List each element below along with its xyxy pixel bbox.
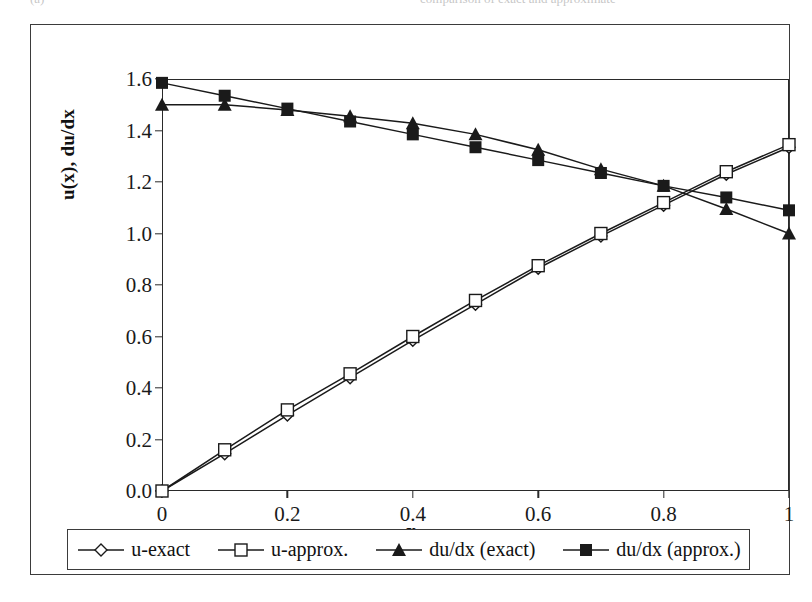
square-filled-marker: [219, 90, 231, 102]
x-tick-mark: [663, 491, 664, 498]
square-filled-marker: [156, 77, 168, 89]
square-open-marker: [219, 444, 231, 456]
x-tick-label: 0.2: [274, 502, 300, 527]
square-filled-marker: [720, 191, 732, 203]
square-open-marker: [407, 331, 419, 343]
square-open-marker: [470, 294, 482, 306]
y-tick-label: 1.0: [88, 221, 152, 246]
y-tick-label: 0.8: [88, 273, 152, 298]
legend-item-4[interactable]: du/dx (approx.): [561, 538, 740, 561]
square-filled-marker: [532, 154, 544, 166]
y-tick-label: 1.6: [88, 67, 152, 92]
square-filled-marker: [344, 115, 356, 127]
triangle-filled-icon: [374, 541, 424, 559]
x-tick-label: 0.4: [400, 502, 426, 527]
square-open-marker: [658, 197, 670, 209]
y-tick-mark: [155, 336, 162, 337]
square-open-marker: [783, 139, 795, 151]
y-tick-mark: [155, 130, 162, 131]
legend-label: du/dx (approx.): [616, 538, 740, 561]
y-tick-mark: [155, 284, 162, 285]
legend-item-2[interactable]: u-approx.: [216, 538, 348, 561]
series-1: [156, 141, 795, 497]
x-tick-label: 1: [784, 502, 795, 527]
square-open-icon: [216, 541, 266, 559]
y-axis-label: u(x), du/dx: [57, 109, 79, 200]
legend-item-1[interactable]: u-exact: [76, 538, 190, 561]
square-open-marker: [281, 404, 293, 416]
x-tick-mark: [788, 491, 789, 498]
square-filled-marker: [580, 544, 592, 556]
series-4: [156, 77, 795, 216]
series-canvas: [162, 79, 789, 491]
x-tick-mark: [287, 491, 288, 498]
series-line: [162, 145, 789, 491]
y-tick-mark: [155, 439, 162, 440]
x-tick-mark: [412, 491, 413, 498]
x-tick-label: 0.8: [650, 502, 676, 527]
diamond-open-icon: [76, 541, 126, 559]
y-tick-label: 0.6: [88, 324, 152, 349]
legend-label: du/dx (exact): [429, 538, 535, 561]
square-open-marker: [235, 544, 247, 556]
legend-label: u-exact: [131, 538, 190, 561]
square-open-marker: [720, 166, 732, 178]
plot-area: [162, 79, 789, 491]
y-tick-label: 0.0: [88, 479, 152, 504]
figure-outer-frame: u(x), du/dx x 0.00.20.40.60.81.01.21.41.…: [30, 24, 790, 575]
series-line: [162, 105, 789, 234]
square-filled-marker: [407, 128, 419, 140]
triangle-filled-marker: [719, 202, 733, 215]
x-tick-label: 0.6: [525, 502, 551, 527]
square-filled-marker: [658, 180, 670, 192]
square-open-marker: [595, 228, 607, 240]
square-filled-marker: [281, 103, 293, 115]
scan-fragment-right: comparison of exact and approximate: [420, 0, 616, 7]
diamond-open-marker: [95, 544, 107, 556]
square-filled-marker: [595, 167, 607, 179]
legend-item-3[interactable]: du/dx (exact): [374, 538, 535, 561]
y-tick-label: 1.4: [88, 118, 152, 143]
series-3: [155, 98, 796, 240]
y-tick-mark: [155, 387, 162, 388]
y-tick-mark: [155, 233, 162, 234]
square-open-marker: [344, 368, 356, 380]
y-tick-mark: [155, 181, 162, 182]
x-tick-label: 0: [157, 502, 168, 527]
x-tick-mark: [537, 491, 538, 498]
square-open-marker: [156, 485, 168, 497]
series-line: [162, 147, 789, 491]
legend: u-exactu-approx.du/dx (exact)du/dx (appr…: [67, 529, 750, 570]
y-tick-label: 0.2: [88, 427, 152, 452]
square-filled-marker: [783, 204, 795, 216]
square-filled-icon: [561, 541, 611, 559]
y-tick-label: 1.2: [88, 170, 152, 195]
legend-label: u-approx.: [271, 538, 348, 561]
square-open-marker: [532, 260, 544, 272]
y-tick-label: 0.4: [88, 376, 152, 401]
scan-artifact-strip: (a) comparison of exact and approximate: [0, 0, 812, 10]
scan-fragment-left: (a): [30, 0, 44, 7]
square-filled-marker: [470, 141, 482, 153]
triangle-filled-marker: [782, 227, 796, 240]
